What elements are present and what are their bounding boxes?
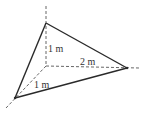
height-label: 1 m	[48, 43, 64, 54]
vertex-bottom-left	[14, 97, 16, 99]
length-label: 2 m	[80, 56, 96, 67]
edge-bottomleft-right	[15, 68, 127, 98]
vertex-right	[126, 67, 128, 69]
tetrahedron-diagram: 1 m 2 m 1 m	[0, 0, 148, 113]
depth-label: 1 m	[34, 79, 50, 90]
